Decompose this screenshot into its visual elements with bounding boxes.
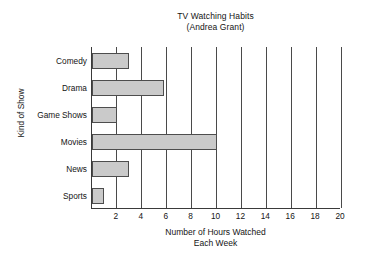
y-axis-tick-label: Comedy <box>14 56 87 66</box>
y-axis-tick-label: Movies <box>14 137 87 147</box>
chart-title-block: TV Watching Habits (Andrea Grant) <box>91 11 340 33</box>
bar <box>92 107 117 123</box>
x-axis-title: Number of Hours Watched Each Week <box>91 227 340 249</box>
gridline <box>341 47 342 208</box>
y-axis-tick-label: Drama <box>14 83 87 93</box>
bar <box>92 80 164 96</box>
bar-series <box>92 47 340 208</box>
y-axis-tick-label: Game Shows <box>14 110 87 120</box>
x-axis-tick-label: 4 <box>129 211 153 221</box>
chart-title: TV Watching Habits <box>91 11 340 22</box>
bar <box>92 188 104 204</box>
bar <box>92 161 129 177</box>
bar <box>92 134 217 150</box>
y-axis-tick-labels: ComedyDramaGame ShowsMoviesNewsSports <box>14 47 87 209</box>
x-axis-tick-label: 10 <box>204 211 228 221</box>
bar <box>92 53 129 69</box>
x-axis-tick-label: 8 <box>179 211 203 221</box>
x-axis-tick-label: 16 <box>278 211 302 221</box>
x-axis-tick-label: 2 <box>104 211 128 221</box>
x-axis-tick-label: 12 <box>228 211 252 221</box>
y-axis-tick-label: Sports <box>14 191 87 201</box>
x-axis-title-line-2: Each Week <box>91 238 340 249</box>
x-axis-tick-label: 20 <box>328 211 352 221</box>
x-axis-tick-labels: 2468101214161820 <box>91 211 340 223</box>
x-axis-tick-label: 6 <box>154 211 178 221</box>
x-axis-tick-label: 14 <box>253 211 277 221</box>
bar-chart: TV Watching Habits (Andrea Grant) Kind o… <box>0 0 367 269</box>
x-axis-tick-label: 18 <box>303 211 327 221</box>
x-axis-title-line-1: Number of Hours Watched <box>91 227 340 238</box>
chart-subtitle: (Andrea Grant) <box>91 22 340 33</box>
plot-area <box>91 47 340 209</box>
y-axis-tick-label: News <box>14 164 87 174</box>
